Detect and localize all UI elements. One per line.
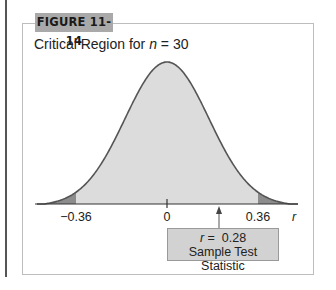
- stat-equation: = 0.28: [204, 231, 246, 245]
- test-statistic-desc: Sample Test Statistic: [168, 245, 278, 273]
- tick-label-zero: 0: [164, 210, 171, 224]
- test-statistic-box: r = 0.28 Sample Test Statistic: [167, 228, 279, 261]
- x-axis-label: r: [292, 210, 296, 224]
- plot-area: [35, 40, 298, 228]
- arrow-head-icon: [216, 206, 222, 214]
- test-statistic-value: r = 0.28: [168, 231, 278, 245]
- right-critical-region: [258, 40, 298, 204]
- tick-label-neg-crit: −0.36: [60, 210, 92, 224]
- left-critical-region: [37, 40, 76, 204]
- non-critical-region: [76, 40, 258, 204]
- tick-label-pos-crit: 0.36: [246, 210, 270, 224]
